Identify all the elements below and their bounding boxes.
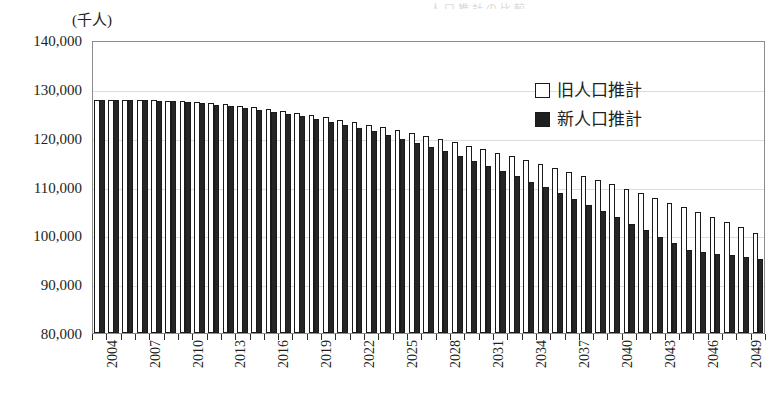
bar-new-projection: [299, 116, 305, 333]
x-tick-label: 2037: [577, 340, 593, 368]
y-tick-label: 120,000: [0, 130, 82, 147]
bar-group: [351, 42, 365, 333]
bar-group: [694, 42, 708, 333]
bar-group: [437, 42, 451, 333]
x-axis-tick-labels: 2004200720102013201620192022202520282031…: [92, 340, 765, 398]
legend-label-new: 新人口推計: [557, 105, 642, 134]
bar-new-projection: [586, 205, 592, 333]
x-tick-label: 2010: [191, 340, 207, 368]
bar-new-projection: [142, 100, 148, 333]
filled-square-icon: [535, 112, 550, 127]
hollow-square-icon: [535, 83, 550, 98]
bar-new-projection: [357, 128, 363, 333]
bar-new-projection: [199, 103, 205, 333]
bar-new-projection: [471, 161, 477, 333]
legend-item-new: 新人口推計: [535, 105, 642, 134]
bar-new-projection: [271, 112, 277, 333]
x-tick-label: 2016: [276, 340, 292, 368]
bar-group: [451, 42, 465, 333]
bar-new-projection: [672, 243, 678, 333]
bar-group: [666, 42, 680, 333]
x-tick-label: 2040: [620, 340, 636, 368]
bar-new-projection: [228, 106, 234, 333]
bar-group: [208, 42, 222, 333]
bar-new-projection: [171, 101, 177, 333]
bar-new-projection: [686, 250, 692, 333]
bar-new-projection: [214, 105, 220, 333]
bar-new-projection: [128, 100, 134, 333]
bar-group: [122, 42, 136, 333]
bar-new-projection: [729, 255, 735, 333]
bar-group: [251, 42, 265, 333]
bar-new-projection: [629, 224, 635, 333]
bar-series-container: [93, 42, 764, 333]
bar-group: [279, 42, 293, 333]
bar-new-projection: [328, 122, 334, 333]
bar-new-projection: [285, 114, 291, 333]
x-tick-label: 2019: [319, 340, 335, 368]
legend-label-old: 旧人口推計: [557, 76, 642, 105]
bar-new-projection: [400, 139, 406, 333]
bar-new-projection: [500, 171, 506, 333]
x-tick-label: 2025: [405, 340, 421, 368]
bar-new-projection: [514, 176, 520, 333]
bar-group: [222, 42, 236, 333]
bar-new-projection: [385, 135, 391, 333]
bar-group: [336, 42, 350, 333]
bar-new-projection: [314, 119, 320, 333]
bar-new-projection: [743, 257, 749, 333]
bar-group: [136, 42, 150, 333]
bar-new-projection: [156, 101, 162, 333]
bar-group: [179, 42, 193, 333]
y-axis-tick-labels: 140,000130,000120,000110,000100,00090,00…: [0, 0, 88, 401]
bar-group: [308, 42, 322, 333]
y-tick-label: 80,000: [0, 326, 82, 343]
bar-new-projection: [715, 254, 721, 333]
bar-new-projection: [572, 199, 578, 333]
bar-group: [93, 42, 107, 333]
y-tick-label: 140,000: [0, 33, 82, 50]
bar-new-projection: [643, 230, 649, 333]
cropped-title: 人口推計の比較: [430, 0, 760, 9]
bar-group: [107, 42, 121, 333]
bar-new-projection: [443, 151, 449, 333]
bar-group: [709, 42, 723, 333]
bar-new-projection: [242, 108, 248, 333]
bar-new-projection: [371, 131, 377, 333]
bar-new-projection: [486, 166, 492, 333]
bar-group: [236, 42, 250, 333]
bar-group: [723, 42, 737, 333]
bar-group: [508, 42, 522, 333]
x-tick-label: 2043: [663, 340, 679, 368]
bar-new-projection: [543, 187, 549, 333]
bar-new-projection: [457, 156, 463, 333]
bar-group: [150, 42, 164, 333]
bar-new-projection: [758, 259, 764, 333]
bar-new-projection: [614, 217, 620, 333]
legend-item-old: 旧人口推計: [535, 76, 642, 105]
bar-group: [394, 42, 408, 333]
bar-new-projection: [342, 125, 348, 333]
bar-group: [379, 42, 393, 333]
bar-group: [322, 42, 336, 333]
bar-new-projection: [414, 143, 420, 333]
x-tick-label: 2046: [706, 340, 722, 368]
x-tick-label: 2031: [491, 340, 507, 368]
x-tick-label: 2022: [362, 340, 378, 368]
bar-group: [408, 42, 422, 333]
bar-new-projection: [529, 182, 535, 333]
bar-group: [165, 42, 179, 333]
bar-new-projection: [657, 237, 663, 333]
y-tick-label: 110,000: [0, 179, 82, 196]
bar-group: [651, 42, 665, 333]
x-tick-label: 2034: [534, 340, 550, 368]
y-tick-label: 100,000: [0, 228, 82, 245]
x-tick-label: 2007: [148, 340, 164, 368]
bar-new-projection: [113, 100, 119, 333]
x-tick-label: 2049: [749, 340, 765, 368]
bar-new-projection: [700, 252, 706, 333]
bar-new-projection: [185, 102, 191, 333]
bar-group: [480, 42, 494, 333]
x-tick-label: 2028: [448, 340, 464, 368]
legend: 旧人口推計 新人口推計: [527, 72, 650, 140]
